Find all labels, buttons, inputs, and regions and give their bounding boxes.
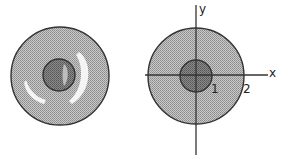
diagram-canvas: x y 1 2 [0,0,290,162]
y-axis-label: y [199,2,206,16]
left-inner-core [43,59,75,91]
outer-radius-label: 2 [243,82,251,96]
inner-radius-label: 1 [211,82,219,96]
x-axis-label: x [269,66,276,80]
right-cross-section: x y 1 2 [145,2,276,155]
left-cross-section [11,27,109,125]
